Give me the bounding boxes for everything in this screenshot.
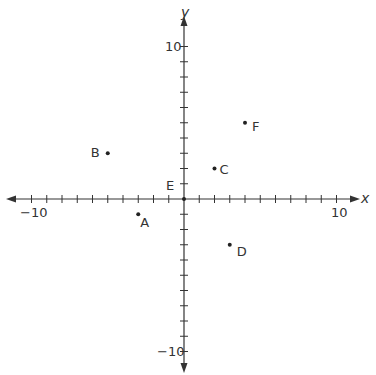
coordinate-plane [0, 0, 376, 375]
point-label-b: B [91, 146, 100, 159]
y-tick-label-10: 10 [165, 40, 182, 53]
point-label-e: E [166, 179, 174, 192]
x-axis-left-arrow-icon [6, 196, 16, 203]
x-tick-label-10: 10 [331, 206, 348, 219]
y-axis-down-arrow-icon [181, 363, 188, 373]
point-c-marker [213, 167, 217, 171]
x-tick-label-neg10: −10 [20, 206, 47, 219]
point-label-c: C [220, 163, 229, 176]
point-label-f: F [252, 120, 259, 133]
y-tick-label-neg10: −10 [157, 345, 184, 358]
point-d-marker [228, 243, 232, 247]
point-f-marker [243, 121, 247, 125]
point-b-marker [106, 151, 110, 155]
point-label-a: A [140, 216, 149, 229]
x-axis-right-arrow-icon [350, 196, 360, 203]
point-label-d: D [237, 245, 247, 258]
x-axis-label: x [361, 191, 369, 205]
y-axis-label: y [181, 5, 189, 19]
point-e-marker [182, 197, 186, 201]
